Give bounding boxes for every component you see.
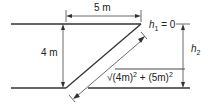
width-arrowhead-right <box>135 14 141 18</box>
h1-label: h1 = 0 <box>149 19 176 32</box>
h2-arrowhead-bottom <box>181 82 185 88</box>
height-label: 4 m <box>41 47 58 58</box>
pipe-elevation-diagram: 5 m 4 m √(4m)2 + (5m)2 h1 = 0 h2 <box>0 0 210 104</box>
h2-label: h2 <box>191 43 201 56</box>
hyp-term-b: (5m) <box>148 72 169 83</box>
hyp-plus: + <box>137 72 148 83</box>
width-arrowhead-left <box>66 14 72 18</box>
height-arrowhead-bottom <box>61 82 65 88</box>
h2-subscript: 2 <box>197 49 201 56</box>
width-label: 5 m <box>94 2 111 13</box>
hyp-term-b-exponent: 2 <box>169 71 173 78</box>
hypotenuse-label: √(4m)2 + (5m)2 <box>107 71 173 83</box>
hyp-term-a: (4m) <box>113 72 134 83</box>
h1-equals-zero: = 0 <box>158 19 175 30</box>
h2-arrowhead-top <box>181 24 185 30</box>
hyp-arrowhead-top <box>138 36 145 43</box>
height-arrowhead-top <box>61 24 65 30</box>
